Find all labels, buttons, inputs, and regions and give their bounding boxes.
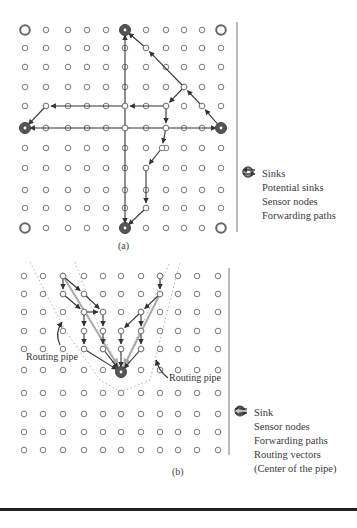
figure-a-forwarding-paths — [28, 33, 221, 224]
sensor-node — [65, 225, 71, 231]
sensor-node — [81, 273, 87, 279]
sensor-node — [181, 225, 187, 231]
sensor-node — [181, 27, 187, 33]
sensor-node — [218, 187, 224, 193]
sensor-node — [138, 429, 144, 435]
sensor-node — [218, 84, 224, 90]
sensor-node — [143, 27, 149, 33]
sensor-node — [100, 367, 106, 373]
sensor-node — [194, 291, 200, 297]
sensor-node — [194, 411, 200, 417]
legend-item-sensor-nodes: Sensor nodes — [242, 194, 336, 208]
sensor-node — [118, 309, 124, 315]
forwarding-path-segment — [28, 106, 46, 124]
sensor-node — [84, 165, 90, 171]
bottom-rule — [0, 508, 357, 511]
potential-sink — [20, 223, 30, 233]
sensor-node — [40, 429, 46, 435]
sensor-node — [84, 64, 90, 70]
sensor-node — [40, 447, 46, 453]
sensor-node — [175, 390, 181, 396]
legend-item-forwarding-paths: Forwarding paths — [242, 208, 336, 222]
sensor-node — [194, 346, 200, 352]
sensor-node — [100, 447, 106, 453]
legend-item-forwarding-paths: Forwarding paths — [234, 433, 337, 447]
sensor-node — [138, 390, 144, 396]
potential-sink — [216, 25, 226, 35]
sensor-node — [103, 145, 109, 151]
sensor-node — [81, 367, 87, 373]
sensor-node — [40, 273, 46, 279]
sensor-node — [194, 273, 200, 279]
sensor-node — [21, 328, 27, 334]
sensor-node — [118, 447, 124, 453]
sensor-node — [43, 187, 49, 193]
sensor-node — [118, 291, 124, 297]
sensor-node — [138, 273, 144, 279]
sensor-node — [157, 429, 163, 435]
sensor-node — [194, 328, 200, 334]
sensor-node — [181, 145, 187, 151]
sensor-node — [81, 411, 87, 417]
sensor-node — [199, 64, 205, 70]
sensor-node — [199, 187, 205, 193]
sensor-node — [194, 429, 200, 435]
sensor-node — [194, 447, 200, 453]
sensor-node — [103, 225, 109, 231]
sensor-node — [84, 187, 90, 193]
forwarding-paths-icon — [242, 209, 258, 221]
figure-a-caption: (a) — [118, 240, 129, 251]
potential-sink — [20, 25, 30, 35]
sensor-node — [100, 291, 106, 297]
sensor-node — [21, 447, 27, 453]
sensor-node — [181, 45, 187, 51]
sensor-node — [215, 390, 221, 396]
routing-pipe-label-right: Routing pipe — [169, 372, 221, 383]
sensor-node — [60, 429, 66, 435]
sensor-node — [199, 27, 205, 33]
sensor-node — [40, 291, 46, 297]
sensor-node — [157, 411, 163, 417]
sensor-node — [163, 225, 169, 231]
sensor-node — [218, 64, 224, 70]
sensor-node — [157, 328, 163, 334]
sensor-node — [60, 411, 66, 417]
sensor-node — [118, 390, 124, 396]
sensor-node — [40, 390, 46, 396]
sensor-node — [163, 187, 169, 193]
sensor-node — [43, 145, 49, 151]
sensor-node — [84, 27, 90, 33]
legend-item-pipe-center: (Center of the pipe) — [234, 461, 337, 475]
sensor-node — [21, 367, 27, 373]
sensor-node — [175, 309, 181, 315]
legend-item-sink: Sink — [234, 405, 337, 419]
sensor-node — [215, 309, 221, 315]
sensor-node — [100, 429, 106, 435]
sensor-node — [181, 64, 187, 70]
sensor-node — [65, 205, 71, 211]
sensor-node — [175, 273, 181, 279]
sensor-node — [218, 103, 224, 109]
sensor-node — [143, 64, 149, 70]
sensor-node — [43, 64, 49, 70]
sensor-node — [40, 367, 46, 373]
sensor-node — [199, 84, 205, 90]
sensor-node — [43, 205, 49, 211]
sensor-node — [103, 84, 109, 90]
sensor-node — [21, 429, 27, 435]
sensor-node — [103, 27, 109, 33]
sensor-node — [21, 411, 27, 417]
sensor-node — [181, 103, 187, 109]
legend-item-sinks: Sinks — [242, 166, 336, 180]
sensor-node — [175, 346, 181, 352]
sensor-node — [163, 165, 169, 171]
sensor-node — [81, 390, 87, 396]
sensor-node — [199, 225, 205, 231]
sensor-node — [163, 205, 169, 211]
sensor-node — [65, 27, 71, 33]
sensor-node — [22, 205, 28, 211]
sensor-node — [81, 429, 87, 435]
figure-b-legend: Sink Sensor nodes Forwarding paths Routi… — [234, 405, 337, 475]
routing-vectors-icon — [234, 448, 250, 460]
sensor-node — [43, 45, 49, 51]
